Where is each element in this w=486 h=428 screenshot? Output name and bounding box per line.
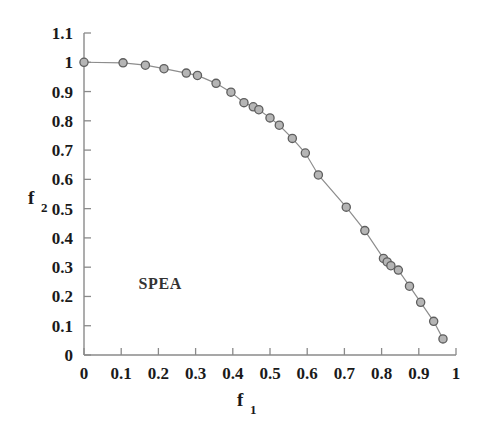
y-tick-label: 0.1 xyxy=(52,317,73,336)
data-point xyxy=(141,61,149,69)
x-axis-title-subscript: 1 xyxy=(250,402,257,417)
data-point xyxy=(275,121,283,129)
x-tick-label: 0.2 xyxy=(148,364,169,383)
annotation-spea: SPEA xyxy=(139,275,182,292)
chart-figure: 00.10.20.30.40.50.60.70.80.911.1 f 2 00.… xyxy=(0,0,486,428)
y-tick-label: 0.8 xyxy=(52,112,73,131)
data-point xyxy=(193,71,201,79)
data-point xyxy=(119,59,127,67)
y-tick-label: 0.3 xyxy=(52,258,73,277)
x-tick-label: 0.1 xyxy=(111,364,132,383)
y-axis-title: f xyxy=(28,187,35,208)
y-tick-label: 0.9 xyxy=(52,83,73,102)
x-tick-label: 0 xyxy=(80,364,89,383)
data-point xyxy=(387,262,395,270)
data-point xyxy=(405,282,413,290)
data-point xyxy=(417,298,425,306)
data-point xyxy=(288,134,296,142)
y-tick-label: 0.6 xyxy=(52,170,73,189)
x-tick-label: 0.4 xyxy=(222,364,244,383)
y-tick-label: 0.7 xyxy=(52,141,74,160)
x-tick-label: 0.3 xyxy=(185,364,206,383)
x-tick-label: 0.5 xyxy=(259,364,280,383)
data-point xyxy=(227,88,235,96)
data-point xyxy=(160,65,168,73)
y-tick-label: 0.4 xyxy=(52,229,74,248)
data-point xyxy=(314,171,322,179)
y-tick-label: 1.1 xyxy=(52,24,73,43)
data-point xyxy=(212,79,220,87)
data-point xyxy=(266,114,274,122)
chart-annotations: SPEA xyxy=(139,275,182,292)
data-point xyxy=(240,99,248,107)
data-point xyxy=(361,226,369,234)
data-point xyxy=(80,58,88,66)
data-point xyxy=(301,149,309,157)
x-axis-title: f xyxy=(237,389,244,410)
data-point xyxy=(439,335,447,343)
x-tick-label: 0.9 xyxy=(408,364,429,383)
y-tick-label: 1 xyxy=(65,53,74,72)
y-axis-title-subscript: 2 xyxy=(41,200,48,215)
data-point xyxy=(430,317,438,325)
data-point xyxy=(394,266,402,274)
y-tick-label: 0.5 xyxy=(52,200,73,219)
x-tick-label: 0.8 xyxy=(371,364,392,383)
x-tick-label: 1 xyxy=(452,364,461,383)
pareto-front-plot: 00.10.20.30.40.50.60.70.80.911.1 f 2 00.… xyxy=(0,0,486,428)
x-tick-label: 0.7 xyxy=(334,364,356,383)
data-point xyxy=(182,69,190,77)
y-tick-label: 0 xyxy=(65,346,74,365)
data-point xyxy=(255,106,263,114)
y-tick-label: 0.2 xyxy=(52,287,73,306)
x-tick-label: 0.6 xyxy=(297,364,318,383)
data-point xyxy=(342,203,350,211)
